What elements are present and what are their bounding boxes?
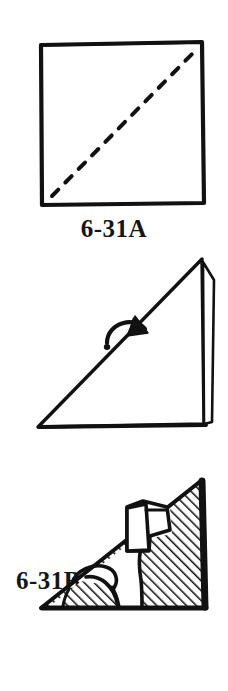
figure-6-31b: 6-31B [0,250,228,450]
diagonal-hatching [30,470,220,620]
figure-6-31b-drawing [0,250,228,450]
diagonal-fold-line [52,52,194,196]
figure-6-31c-drawing [0,450,228,691]
figure-6-31c: 6-31C [0,450,228,691]
figure-6-31a: 6-31A [0,0,228,250]
figure-6-31a-drawing [0,0,228,250]
base-edge [39,425,206,427]
figure-sheet: 6-31A 6- [0,0,228,691]
arrow-tail-tick [104,344,110,350]
figure-6-31a-caption: 6-31A [0,216,228,241]
folded-flap-sliver [203,262,214,424]
triangle-outline [38,259,204,427]
